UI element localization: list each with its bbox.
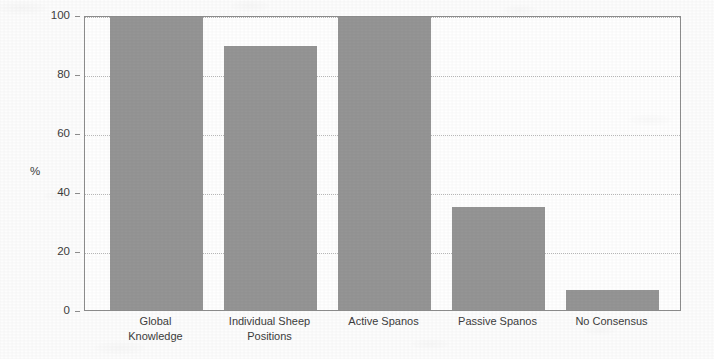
bar-individual-sheep-positions[interactable] <box>224 46 317 310</box>
y-tick-label-40: 40 <box>57 187 70 199</box>
bar-no-consensus[interactable] <box>566 290 659 311</box>
y-tick-mark-20 <box>75 252 80 253</box>
x-tick-label-active-spanos: Active Spanos <box>321 314 446 329</box>
y-axis-title: % <box>30 165 40 177</box>
y-tick-mark-40 <box>75 193 80 194</box>
y-tick-mark-0 <box>75 311 80 312</box>
y-tick-mark-60 <box>75 134 80 135</box>
plot-area <box>84 16 681 311</box>
y-tick-label-100: 100 <box>51 10 70 22</box>
x-tick-label-no-consensus: No Consensus <box>549 314 674 329</box>
bar-active-spanos[interactable] <box>338 17 431 310</box>
y-tick-label-80: 80 <box>57 69 70 81</box>
y-tick-mark-100 <box>75 16 80 17</box>
x-tick-label-global-knowledge: Global Knowledge <box>93 314 218 344</box>
x-tick-label-passive-spanos: Passive Spanos <box>435 314 560 329</box>
y-tick-label-0: 0 <box>64 305 70 317</box>
y-tick-mark-80 <box>75 75 80 76</box>
bar-passive-spanos[interactable] <box>452 207 545 310</box>
y-tick-label-60: 60 <box>57 128 70 140</box>
bar-chart-figure: 0 20 40 60 80 100 % Global Knowledge Ind <box>0 0 714 359</box>
bars-layer <box>85 17 680 310</box>
y-tick-label-20: 20 <box>57 246 70 258</box>
x-axis: Global Knowledge Individual Sheep Positi… <box>84 314 681 359</box>
bar-global-knowledge[interactable] <box>110 17 203 310</box>
x-tick-label-individual-sheep-positions: Individual Sheep Positions <box>207 314 332 344</box>
y-axis: 0 20 40 60 80 100 <box>0 0 84 359</box>
